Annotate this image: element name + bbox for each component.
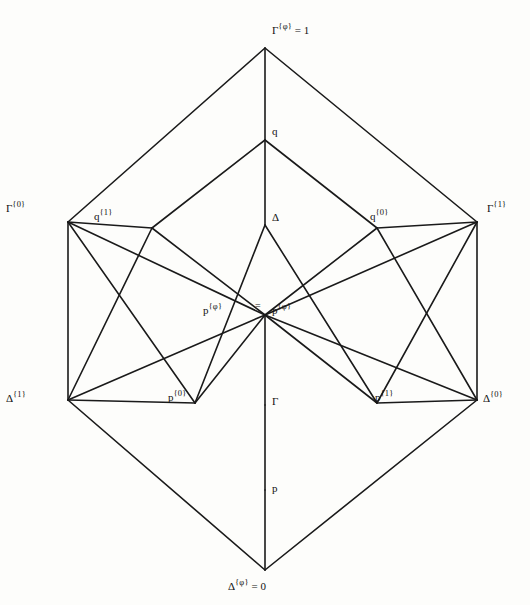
lattice-edge-delta_1-to-q_1 — [68, 228, 152, 400]
lattice-edge-p_1-to-center — [265, 315, 377, 403]
node-label-q-1: q{1} — [94, 208, 113, 222]
node-sup-p-0: {0} — [174, 388, 187, 398]
center-label-left: p{φ} — [203, 302, 222, 316]
center-sup-right: {φ} — [278, 301, 292, 311]
center-label-right: p{φ} — [272, 302, 291, 316]
node-sup-gamma-phi-top: {φ} — [278, 21, 292, 31]
node-label-delta-1: Δ{1} — [6, 390, 26, 404]
node-base-delta-mid: Δ — [272, 211, 279, 223]
lattice-edge-q_0-to-gamma_1 — [377, 222, 477, 228]
center-equals-sign: = — [255, 300, 261, 311]
node-sup-delta-0: {0} — [490, 389, 503, 399]
node-base-gamma-mid: Γ — [272, 395, 278, 407]
node-base-p-lower: p — [272, 482, 278, 494]
lattice-edge-delta_0-to-bottom — [265, 400, 477, 570]
node-sup-gamma-0: {0} — [12, 199, 25, 209]
node-label-delta-phi-bottom: Δ{φ} = 0 — [228, 578, 266, 592]
lattice-edge-gamma_0-to-p_0 — [68, 222, 195, 403]
lattice-edge-p_0-to-center — [195, 315, 265, 403]
lattice-edge-gamma_0-to-center — [68, 222, 265, 315]
lattice-edge-delta_0-to-center — [265, 315, 477, 400]
lattice-edges — [0, 0, 530, 605]
node-sup-delta-1: {1} — [13, 389, 26, 399]
node-eq-delta-phi-bottom: = 0 — [249, 580, 266, 592]
node-label-q-0: q{0} — [370, 208, 389, 222]
node-label-delta-0: Δ{0} — [483, 390, 503, 404]
node-sup-delta-phi-bottom: {φ} — [235, 577, 249, 587]
node-sup-gamma-1: {1} — [493, 199, 506, 209]
node-label-gamma-0: Γ{0} — [6, 200, 25, 214]
node-sup-q-0: {0} — [376, 207, 389, 217]
center-sup-left: {φ} — [209, 301, 223, 311]
lattice-edge-top-to-gamma_1 — [265, 48, 477, 222]
node-label-delta-mid: Δ — [272, 212, 279, 223]
lattice-diagram-canvas: Γ{φ} = 1Δ{φ} = 0qΔΓpΓ{0}Γ{1}Δ{1}Δ{0}q{1}… — [0, 0, 530, 605]
node-label-p-0: p{0} — [168, 389, 187, 403]
node-label-gamma-mid: Γ — [272, 396, 278, 407]
lattice-edge-gamma_1-to-center — [265, 222, 477, 315]
node-sup-q-1: {1} — [100, 207, 113, 217]
lattice-edge-q_top-to-q_1 — [152, 140, 265, 228]
node-sup-p-1: {1} — [381, 388, 394, 398]
node-label-p-lower: p — [272, 483, 278, 494]
node-base-q-upper: q — [272, 125, 278, 137]
lattice-edge-delta_1-to-center — [68, 315, 265, 400]
node-label-gamma-1: Γ{1} — [487, 200, 506, 214]
lattice-edge-q_top-to-q_0 — [265, 140, 377, 228]
lattice-edge-top-to-gamma_0 — [68, 48, 265, 222]
lattice-edge-delta_1-to-bottom — [68, 400, 265, 570]
node-label-p-1: p{1} — [375, 389, 394, 403]
node-label-gamma-phi-top: Γ{φ} = 1 — [272, 22, 309, 36]
node-eq-gamma-phi-top: = 1 — [292, 24, 309, 36]
node-label-q-upper: q — [272, 126, 278, 137]
